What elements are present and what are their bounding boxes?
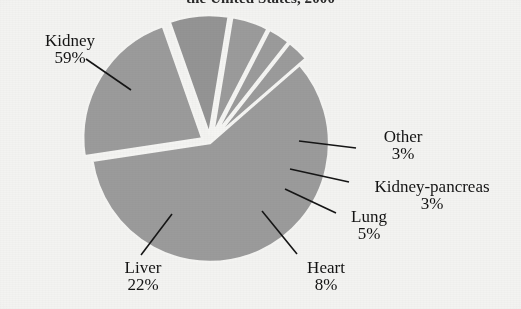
pie-label-heart-name: Heart [283,259,369,276]
pie-label-lung: Lung 5% [330,208,408,243]
pie-label-liver-value: 22% [96,276,190,293]
pie-label-other-value: 3% [358,145,448,162]
pie-label-kidney-value: 59% [16,49,124,66]
pie-label-other-name: Other [358,128,448,145]
pie-label-lung-value: 5% [330,225,408,242]
pie-label-heart: Heart 8% [283,259,369,294]
pie-label-kidney: Kidney 59% [16,32,124,67]
pie-label-liver: Liver 22% [96,259,190,294]
pie-label-kidney-name: Kidney [16,32,124,49]
pie-label-other: Other 3% [358,128,448,163]
pie-label-kidney-pancreas-value: 3% [343,195,521,212]
pie-label-liver-name: Liver [96,259,190,276]
pie-label-kidney-pancreas-name: Kidney-pancreas [343,178,521,195]
chart-title: the United States, 2000 [0,0,521,6]
pie-label-kidney-pancreas: Kidney-pancreas 3% [343,178,521,213]
pie-label-heart-value: 8% [283,276,369,293]
